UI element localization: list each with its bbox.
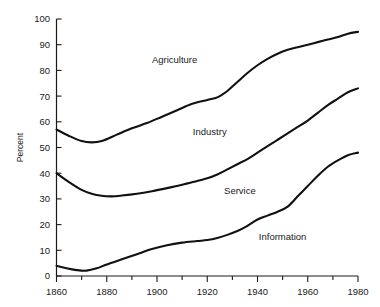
y-axis-tick-label: 70 xyxy=(39,91,50,102)
y-axis-tick-label: 30 xyxy=(39,193,50,204)
chart-axes xyxy=(57,19,359,276)
x-axis-tick-label: 1920 xyxy=(197,286,218,297)
y-axis-tick-group: 0102030405060708090100 xyxy=(34,13,61,281)
y-axis-tick-label: 20 xyxy=(39,219,50,230)
series-curve-service xyxy=(57,153,359,271)
x-axis-tick-label: 1900 xyxy=(146,286,167,297)
chart-curve-group xyxy=(57,32,359,271)
y-axis-tick-label: 40 xyxy=(39,168,50,179)
series-inline-label-information: Information xyxy=(259,231,307,242)
y-axis-title: Percent xyxy=(15,132,25,162)
x-axis-tick-label: 1960 xyxy=(297,286,318,297)
axis-title-group: Percent xyxy=(15,132,25,162)
y-axis-tick-label: 10 xyxy=(39,245,50,256)
y-axis-tick-label: 80 xyxy=(39,65,50,76)
x-axis-tick-label: 1860 xyxy=(46,286,67,297)
y-axis-tick-label: 100 xyxy=(34,13,50,24)
y-axis-tick-label: 50 xyxy=(39,142,50,153)
y-axis-tick-label: 60 xyxy=(39,116,50,127)
axis-frame xyxy=(57,19,359,276)
series-inline-label-service: Service xyxy=(224,185,256,196)
x-axis-tick-label: 1980 xyxy=(347,286,368,297)
y-axis-tick-label: 90 xyxy=(39,39,50,50)
chart-annotation-group: AgricultureIndustryServiceInformation xyxy=(152,54,307,242)
y-axis-tick-label: 0 xyxy=(45,270,50,281)
series-inline-label-agriculture: Agriculture xyxy=(152,54,197,65)
chart-figure: 0102030405060708090100 18601880190019201… xyxy=(0,0,380,307)
percent-by-sector-line-chart: 0102030405060708090100 18601880190019201… xyxy=(0,0,380,307)
x-axis-tick-label: 1940 xyxy=(247,286,268,297)
series-inline-label-industry: Industry xyxy=(193,126,227,137)
x-axis-tick-label: 1880 xyxy=(96,286,117,297)
x-axis-tick-group: 1860188019001920194019601980 xyxy=(46,276,369,297)
